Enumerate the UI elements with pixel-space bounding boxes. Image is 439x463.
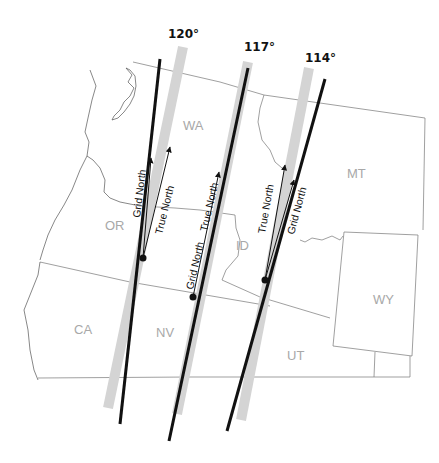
meridian-line-117: [169, 68, 248, 441]
state-label-mt: MT: [347, 166, 366, 181]
state-label-ut: UT: [287, 348, 304, 363]
state-label-nv: NV: [156, 325, 174, 340]
true-north-label-114: True North: [255, 183, 275, 234]
meridian-line-114: [227, 79, 325, 431]
state-label-id: ID: [236, 238, 249, 253]
state-label-or: OR: [105, 218, 125, 233]
meridian-label-117: 117°: [244, 40, 275, 54]
map-canvas: 120° 117° 114° Grid North True North Gri…: [0, 0, 439, 463]
state-label-wy: WY: [373, 292, 394, 307]
meridian-label-114: 114°: [305, 51, 336, 65]
meridian-lines: [120, 59, 325, 441]
state-label-wa: WA: [183, 118, 204, 133]
meridian-label-120: 120°: [168, 27, 199, 41]
state-label-ca: CA: [74, 322, 92, 337]
meridian-line-120: [120, 59, 160, 424]
